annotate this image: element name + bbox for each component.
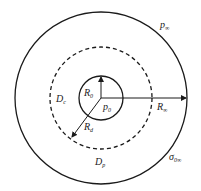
cavity-expansion-diagram: p∞ R0 p0 Dc Rd R∞ Dp σ0∞ — [0, 0, 201, 191]
label-rd: Rd — [83, 121, 94, 133]
label-r0: R0 — [83, 87, 93, 99]
label-r-infinity: R∞ — [156, 101, 168, 113]
label-p0: p0 — [102, 101, 111, 113]
label-dp: Dp — [94, 156, 105, 168]
label-dc: Dc — [55, 93, 66, 105]
label-p-infinity: p∞ — [159, 19, 170, 31]
label-sigma: σ0∞ — [169, 151, 182, 163]
